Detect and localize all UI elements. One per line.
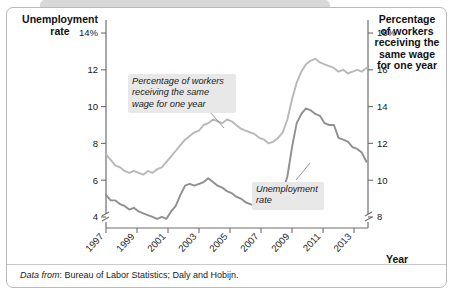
y-left-tick-label: 12: [87, 64, 98, 75]
callout-unemployment-series: Unemployment rate: [252, 182, 324, 210]
callout-wage-line2: receiving the same: [132, 87, 232, 98]
x-tick-label: 2013: [331, 231, 353, 254]
x-tick-label: 1999: [114, 231, 136, 254]
figure-container: Unemployment rate Percentage of workers …: [0, 0, 453, 295]
y-right-tick-label: 18%: [377, 27, 397, 38]
source-divider: [7, 264, 446, 265]
y-left-tick-label: 6: [93, 175, 98, 186]
y-left-tick-label: 4: [93, 211, 98, 222]
x-tick-label: 2011: [301, 231, 323, 253]
x-tick-label: 1997: [83, 231, 105, 254]
y-right-tick-label: 14: [377, 101, 388, 112]
y-right-tick-label: 10: [377, 175, 388, 186]
source-note: Data from: Bureau of Labor Statistics; D…: [20, 270, 239, 280]
y-left-tick-label: 10: [87, 101, 98, 112]
callout-wage-line3: wage for one year: [132, 99, 232, 110]
leader-line-unemployment: [296, 163, 310, 180]
y-right-tick-label: 8: [377, 211, 382, 222]
axes-layer: 468101214%81012141618%199719992001200320…: [79, 20, 397, 254]
x-tick-label: 2001: [145, 231, 167, 254]
y-left-tick-label: 8: [93, 138, 98, 149]
x-tick-label: 2007: [238, 231, 260, 254]
source-label: Data from: [20, 270, 60, 280]
callout-unemp-line2: rate: [256, 195, 320, 206]
callout-unemp-line1: Unemployment: [256, 184, 320, 195]
callout-wage-line1: Percentage of workers: [132, 76, 232, 87]
source-text: : Bureau of Labor Statistics; Daly and H…: [60, 270, 239, 280]
y-left-tick-label: 14%: [79, 27, 99, 38]
x-tick-label: 2009: [269, 231, 291, 254]
chart-plot: 468101214%81012141618%199719992001200320…: [0, 0, 453, 295]
x-tick-label: 2003: [176, 231, 198, 254]
callout-wage-series: Percentage of workers receiving the same…: [128, 74, 236, 113]
y-right-tick-label: 16: [377, 64, 388, 75]
x-tick-label: 2005: [207, 231, 229, 254]
y-right-tick-label: 12: [377, 138, 388, 149]
